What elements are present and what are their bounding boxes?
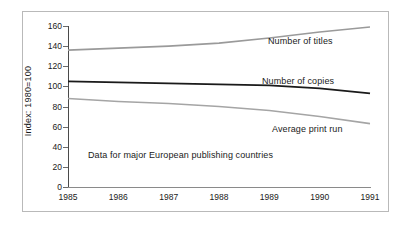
x-tick-label: 1987 <box>159 192 178 202</box>
series-label-number-of-copies: Number of copies <box>262 76 334 86</box>
chart-annotation: Data for major European publishing count… <box>88 150 273 160</box>
series-label-average-print-run: Average print run <box>272 124 343 134</box>
x-tick-label: 1991 <box>361 192 380 202</box>
x-tick-label: 1986 <box>109 192 128 202</box>
x-tick-label: 1985 <box>59 192 78 202</box>
chart-figure: Index: 1980=100 020406080100120140160 Nu… <box>0 0 414 225</box>
x-tick-label: 1990 <box>310 192 329 202</box>
x-tick-label: 1989 <box>260 192 279 202</box>
x-tick-label: 1988 <box>210 192 229 202</box>
series-label-number-of-titles: Number of titles <box>268 36 333 46</box>
series-line-average-print-run <box>68 98 370 123</box>
